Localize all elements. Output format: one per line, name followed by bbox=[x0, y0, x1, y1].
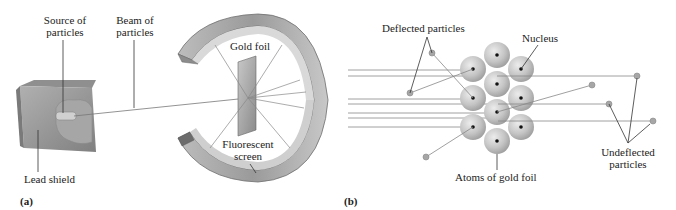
fluorescent-label-line2: screen bbox=[220, 150, 276, 162]
panel-label-a: (a) bbox=[20, 195, 33, 207]
fluorescent-label-line1: Fluorescent bbox=[220, 138, 276, 150]
undeflected-label-line1: Undeflected bbox=[598, 146, 658, 158]
deflected-label: Deflected particles bbox=[382, 22, 465, 34]
label-gold-foil: Gold foil bbox=[225, 40, 275, 52]
label-atoms-of-gold-foil: Atoms of gold foil bbox=[455, 171, 537, 183]
rutherford-experiment-diagram: Source of particles Beam of particles Go… bbox=[0, 0, 676, 210]
gold-atoms bbox=[460, 42, 534, 154]
lead-shield-box bbox=[16, 80, 96, 152]
label-undeflected-particles: Undeflected particles bbox=[598, 146, 658, 170]
source-label-line2: particles bbox=[40, 26, 90, 38]
label-source-of-particles: Source of particles bbox=[40, 14, 90, 38]
lead-shield-label: Lead shield bbox=[24, 173, 75, 185]
panel-label-b: (b) bbox=[344, 195, 357, 207]
source-label-line1: Source of bbox=[40, 14, 90, 26]
label-nucleus: Nucleus bbox=[522, 32, 558, 44]
diagram-graphics bbox=[0, 0, 676, 210]
gold-foil-label: Gold foil bbox=[225, 40, 275, 52]
label-deflected-particles: Deflected particles bbox=[382, 22, 465, 34]
scatter-lines bbox=[210, 45, 306, 148]
undeflected-label-line2: particles bbox=[598, 158, 658, 170]
label-lead-shield: Lead shield bbox=[24, 173, 75, 185]
beam-label-line2: particles bbox=[110, 26, 160, 38]
particle-beam bbox=[74, 98, 248, 116]
label-beam-of-particles: Beam of particles bbox=[110, 14, 160, 38]
nucleus-label: Nucleus bbox=[522, 32, 558, 44]
beam-label-line1: Beam of bbox=[110, 14, 160, 26]
atoms-label: Atoms of gold foil bbox=[455, 171, 537, 183]
label-fluorescent-screen: Fluorescent screen bbox=[220, 138, 276, 162]
